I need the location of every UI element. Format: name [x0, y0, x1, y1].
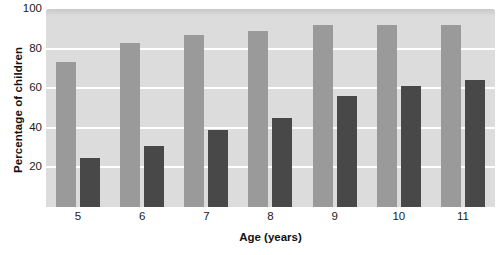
bar-series-light-8	[248, 31, 268, 207]
x-tick-9: 9	[313, 210, 357, 222]
bar-series-dark-7	[208, 130, 228, 207]
bar-series-dark-5	[80, 158, 100, 208]
bar-group	[431, 9, 495, 207]
bar-series-light-10	[377, 25, 397, 207]
x-tick-5: 5	[56, 210, 100, 222]
y-tick-20: 20	[12, 161, 42, 173]
y-axis-tick-labels: 20406080100	[10, 0, 42, 255]
bar-series-light-9	[313, 25, 333, 207]
bar-group	[367, 9, 431, 207]
y-tick-40: 40	[12, 122, 42, 134]
bar-group	[174, 9, 238, 207]
x-tick-8: 8	[249, 210, 293, 222]
bar-series-dark-10	[401, 86, 421, 207]
bar-series-dark-8	[272, 118, 292, 207]
bar-chart: Percentage of children 20406080100 56789…	[0, 0, 502, 255]
bar-series-light-7	[184, 35, 204, 207]
y-tick-80: 80	[12, 43, 42, 55]
x-axis-tick-labels: 567891011	[46, 210, 495, 228]
bar-series-dark-6	[144, 146, 164, 207]
bar-group	[110, 9, 174, 207]
bar-series-light-6	[120, 43, 140, 207]
x-tick-6: 6	[120, 210, 164, 222]
x-tick-10: 10	[377, 210, 421, 222]
x-tick-7: 7	[184, 210, 228, 222]
bar-series-dark-11	[465, 80, 485, 207]
y-tick-100: 100	[12, 3, 42, 15]
bar-group	[238, 9, 302, 207]
plot-area	[46, 9, 495, 207]
x-axis-title: Age (years)	[46, 231, 495, 243]
bar-group	[46, 9, 110, 207]
x-tick-11: 11	[441, 210, 485, 222]
bar-series-light-11	[441, 25, 461, 207]
bar-series-light-5	[56, 62, 76, 207]
bar-group	[303, 9, 367, 207]
bar-series-dark-9	[337, 96, 357, 207]
y-tick-60: 60	[12, 82, 42, 94]
